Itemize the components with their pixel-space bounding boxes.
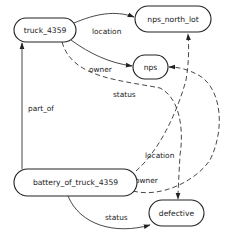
edge-label-battery-status: status: [105, 213, 128, 222]
edge-truck-location: [74, 13, 134, 23]
node-label: nps_north_lot: [147, 15, 198, 24]
node-label: nps: [144, 63, 158, 72]
edge-label-truck-location: location: [92, 27, 122, 36]
edge-label-battery-location: location: [145, 151, 175, 160]
node-label: truck_4359: [24, 26, 67, 35]
knowledge-graph-diagram: location owner status part_of location o…: [0, 0, 236, 242]
edge-label-battery-part-of: part_of: [28, 104, 54, 113]
edge-label-battery-owner: owner: [135, 176, 159, 185]
node-label: battery_of_truck_4359: [33, 178, 118, 187]
node-defective[interactable]: defective: [149, 200, 204, 226]
edge-truck-owner: [71, 40, 132, 66]
node-truck-4359[interactable]: truck_4359: [14, 18, 76, 42]
node-nps-north-lot[interactable]: nps_north_lot: [135, 6, 211, 32]
edge-label-truck-status: status: [113, 90, 136, 99]
node-nps[interactable]: nps: [133, 55, 168, 79]
node-battery-of-truck-4359[interactable]: battery_of_truck_4359: [14, 169, 137, 196]
edge-label-truck-owner: owner: [89, 65, 113, 74]
node-label: defective: [159, 209, 195, 218]
